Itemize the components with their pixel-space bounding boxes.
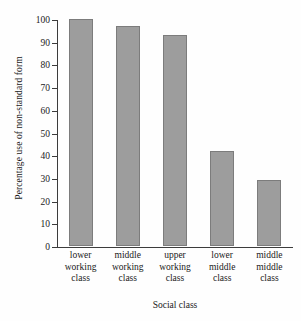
x-axis-category-label-line: class xyxy=(246,273,293,285)
y-axis-tick-mark xyxy=(52,43,57,44)
y-axis-tick-label: 0 xyxy=(45,242,50,252)
y-axis-tick-label: 10 xyxy=(41,219,51,229)
y-axis-line xyxy=(57,20,58,248)
x-axis-category-label: lowerworkingclass xyxy=(57,250,104,285)
x-axis-category-label-line: class xyxy=(57,273,104,285)
bar-slot xyxy=(210,19,234,246)
x-axis-category-label: lowermiddleclass xyxy=(199,250,246,285)
x-axis-category-label-line: working xyxy=(151,262,198,274)
bar xyxy=(210,151,234,246)
y-axis-tick-mark xyxy=(52,134,57,135)
x-axis-category-label: middlemiddleclass xyxy=(246,250,293,285)
y-axis-tick-mark xyxy=(52,224,57,225)
y-axis-tick-mark xyxy=(52,179,57,180)
x-axis-category-label-line: middle xyxy=(104,250,151,262)
y-axis-tick-label: 100 xyxy=(36,15,50,25)
x-axis-category-label-line: working xyxy=(104,262,151,274)
x-axis-category-label-line: class xyxy=(199,273,246,285)
bar-chart-figure: Percentage use of non-standard form 0102… xyxy=(0,0,301,321)
x-axis-category-label-line: lower xyxy=(57,250,104,262)
y-axis-tick-mark xyxy=(52,65,57,66)
bar-slot xyxy=(69,19,93,246)
y-axis-tick-mark xyxy=(52,247,57,248)
bar-slot xyxy=(257,19,281,246)
x-axis-title: Social class xyxy=(57,300,293,310)
bar xyxy=(69,19,93,246)
y-axis-tick-label: 40 xyxy=(41,151,51,161)
x-axis-category-label-line: middle xyxy=(246,262,293,274)
y-axis-tick-mark xyxy=(52,20,57,21)
y-axis-tick-label: 70 xyxy=(41,83,51,93)
x-axis-category-labels: lowerworkingclassmiddleworkingclassupper… xyxy=(57,250,293,298)
y-axis-tick-label: 30 xyxy=(41,174,51,184)
y-axis-tick-label: 90 xyxy=(41,38,51,48)
bar xyxy=(163,35,187,246)
bar xyxy=(116,26,140,246)
x-axis-category-label-line: working xyxy=(57,262,104,274)
x-axis-category-label-line: middle xyxy=(246,250,293,262)
y-axis-tick-mark xyxy=(52,156,57,157)
bar-slot xyxy=(116,19,140,246)
y-axis-title: Percentage use of non-standard form xyxy=(14,16,24,241)
x-axis-category-label-line: middle xyxy=(199,262,246,274)
y-axis-tick-label: 20 xyxy=(41,197,51,207)
x-axis-line xyxy=(57,247,293,248)
x-axis-category-label-line: lower xyxy=(199,250,246,262)
x-axis-category-label-line: class xyxy=(104,273,151,285)
y-axis-tick-mark xyxy=(52,202,57,203)
bar-slot xyxy=(163,19,187,246)
y-axis-tick-label: 50 xyxy=(41,129,51,139)
y-axis-tick-label: 80 xyxy=(41,60,51,70)
x-axis-category-label: upperworkingclass xyxy=(151,250,198,285)
y-axis-tick-mark xyxy=(52,111,57,112)
plot-area: 0102030405060708090100 xyxy=(57,20,293,247)
x-axis-category-label: middleworkingclass xyxy=(104,250,151,285)
y-axis-tick-mark xyxy=(52,88,57,89)
bar xyxy=(257,180,281,246)
y-axis-tick-label: 60 xyxy=(41,106,51,116)
x-axis-category-label-line: upper xyxy=(151,250,198,262)
x-axis-category-label-line: class xyxy=(151,273,198,285)
